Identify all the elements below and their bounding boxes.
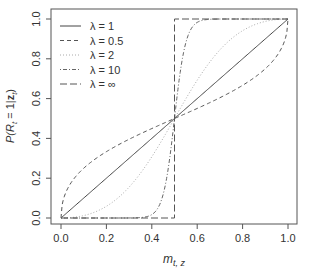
y-axis: 0.00.20.40.60.81.0 xyxy=(30,11,51,225)
legend-label: λ = 2 xyxy=(90,49,114,61)
legend: λ = 1λ = 0.5λ = 2λ = 10λ = ∞ xyxy=(60,20,123,90)
y-tick-label: 1.0 xyxy=(30,11,42,26)
x-axis: 0.00.20.40.60.81.0 xyxy=(53,224,295,244)
y-tick-label: 0.8 xyxy=(30,51,42,66)
plot-area: 0.00.20.40.60.81.0 0.00.20.40.60.81.0 λ … xyxy=(0,0,311,272)
y-tick-label: 0.0 xyxy=(30,210,42,225)
chart: 0.00.20.40.60.81.0 0.00.20.40.60.81.0 λ … xyxy=(0,0,311,272)
y-tick-label: 0.6 xyxy=(30,91,42,106)
y-tick-label: 0.4 xyxy=(30,131,42,146)
y-tick-label: 0.2 xyxy=(30,171,42,186)
legend-label: λ = 0.5 xyxy=(90,35,123,47)
legend-label: λ = 10 xyxy=(90,64,120,76)
x-tick-label: 0.8 xyxy=(235,232,250,244)
legend-label: λ = 1 xyxy=(90,20,114,32)
legend-label: λ = ∞ xyxy=(90,78,116,90)
x-tick-label: 0.0 xyxy=(53,232,68,244)
x-tick-label: 0.2 xyxy=(99,232,114,244)
x-tick-label: 0.4 xyxy=(144,232,159,244)
x-tick-label: 1.0 xyxy=(280,232,295,244)
x-tick-label: 0.6 xyxy=(190,232,205,244)
y-axis-label: P(Rt = 1|zt) xyxy=(4,89,19,143)
x-axis-label: mt, z xyxy=(163,252,186,268)
